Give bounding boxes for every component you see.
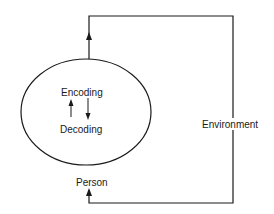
up-arrowhead [69,99,74,106]
upward-arrowhead-top [86,32,92,40]
environment-label: Environment [202,119,258,130]
person-environment-diagram: Encoding Decoding Person Environment [0,0,274,214]
down-arrowhead [86,113,91,120]
upward-arrowhead-bottom [86,188,92,196]
person-ellipse [21,59,151,165]
environment-loop-line [89,16,233,203]
encoding-label: Encoding [61,87,103,98]
decoding-label: Decoding [60,124,102,135]
person-label: Person [76,177,108,188]
